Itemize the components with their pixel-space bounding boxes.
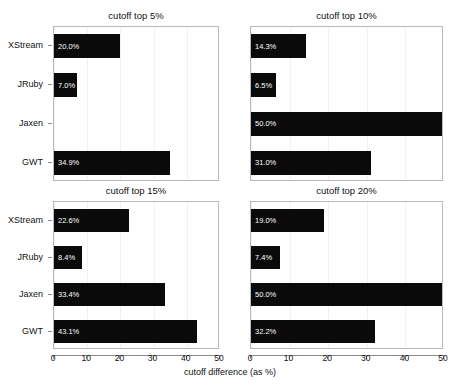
bar-value-label-jruby: 7.4% bbox=[255, 253, 272, 262]
ytick-mark-xstream bbox=[48, 220, 52, 221]
gridline-x-40 bbox=[187, 27, 188, 180]
bar-gwt bbox=[54, 320, 197, 343]
ytick-mark-xstream bbox=[48, 45, 52, 46]
bar-jaxen bbox=[251, 283, 443, 306]
xtick-label-30: 30 bbox=[148, 353, 157, 363]
bar-gwt bbox=[54, 151, 170, 175]
bar-value-label-jruby: 6.5% bbox=[255, 81, 272, 90]
xtick-label-40: 40 bbox=[400, 353, 409, 363]
gridline-x-0 bbox=[54, 202, 55, 348]
gridline-x-40 bbox=[405, 202, 406, 348]
plot-area-1: 20.0%7.0%34.9% bbox=[53, 26, 219, 181]
ytick-mark-gwt bbox=[48, 331, 52, 332]
xtick-label-20: 20 bbox=[322, 353, 331, 363]
bar-jruby bbox=[54, 246, 82, 269]
xtick-mark-50 bbox=[219, 355, 220, 359]
panel-title-2: cutoff top 10% bbox=[250, 10, 443, 22]
bar-value-label-gwt: 34.9% bbox=[58, 158, 79, 167]
gridline-x-40 bbox=[405, 27, 406, 180]
panel-title-3: cutoff top 15% bbox=[53, 185, 219, 197]
bar-gwt bbox=[251, 320, 375, 343]
xtick-label-10: 10 bbox=[284, 353, 293, 363]
bar-xstream bbox=[251, 209, 324, 232]
bar-value-label-jaxen: 33.4% bbox=[58, 290, 79, 299]
gridline-x-0 bbox=[251, 202, 252, 348]
gridline-x-20 bbox=[120, 27, 121, 180]
gridline-x-20 bbox=[328, 202, 329, 348]
gridline-x-20 bbox=[120, 202, 121, 348]
bar-jaxen bbox=[251, 112, 443, 136]
ytick-mark-jruby bbox=[48, 257, 52, 258]
xtick-mark-30 bbox=[366, 355, 367, 359]
ytick-label-gwt: GWT bbox=[0, 157, 43, 167]
gridline-x-10 bbox=[290, 202, 291, 348]
xtick-mark-10 bbox=[289, 355, 290, 359]
chart-panel-2: cutoff top 10%14.3%6.5%50.0%31.0% bbox=[0, 0, 460, 386]
chart-panel-1: cutoff top 5%20.0%7.0%34.9%XStreamJRubyJ… bbox=[0, 0, 460, 386]
ytick-label-jaxen: Jaxen bbox=[0, 289, 43, 299]
xtick-mark-20 bbox=[327, 355, 328, 359]
ytick-mark-jaxen bbox=[48, 294, 52, 295]
xtick-label-10: 10 bbox=[81, 353, 90, 363]
plot-area-4: 19.0%7.4%50.0%32.2% bbox=[250, 201, 443, 349]
gridline-x-40 bbox=[187, 202, 188, 348]
gridline-x-30 bbox=[154, 202, 155, 348]
bar-value-label-jaxen: 50.0% bbox=[255, 119, 276, 128]
bar-jruby bbox=[54, 73, 77, 97]
xtick-mark-40 bbox=[186, 355, 187, 359]
plot-area-3: 22.6%8.4%33.4%43.1% bbox=[53, 201, 219, 349]
ytick-label-xstream: XStream bbox=[0, 40, 43, 50]
xtick-label-0: 0 bbox=[51, 353, 56, 363]
xtick-mark-30 bbox=[153, 355, 154, 359]
bar-gwt bbox=[251, 151, 371, 175]
gridline-x-30 bbox=[367, 202, 368, 348]
bar-xstream bbox=[54, 209, 129, 232]
bar-jruby bbox=[251, 246, 280, 269]
xtick-mark-0 bbox=[250, 355, 251, 359]
bar-value-label-xstream: 22.6% bbox=[58, 216, 79, 225]
ytick-label-jruby: JRuby bbox=[0, 252, 43, 262]
x-axis-title: cutoff difference (as %) bbox=[0, 367, 460, 378]
ytick-label-xstream: XStream bbox=[0, 215, 43, 225]
ytick-mark-jruby bbox=[48, 84, 52, 85]
bar-value-label-jruby: 7.0% bbox=[58, 81, 75, 90]
panel-title-1: cutoff top 5% bbox=[53, 10, 219, 22]
bar-value-label-jruby: 8.4% bbox=[58, 253, 75, 262]
xtick-label-0: 0 bbox=[248, 353, 253, 363]
xtick-label-50: 50 bbox=[214, 353, 223, 363]
bar-value-label-gwt: 31.0% bbox=[255, 158, 276, 167]
x-axis-line-4 bbox=[250, 355, 443, 356]
gridline-x-30 bbox=[154, 27, 155, 180]
ytick-label-jruby: JRuby bbox=[0, 79, 43, 89]
ytick-mark-jaxen bbox=[48, 123, 52, 124]
bar-value-label-xstream: 19.0% bbox=[255, 216, 276, 225]
gridline-x-10 bbox=[290, 27, 291, 180]
bar-value-label-gwt: 32.2% bbox=[255, 327, 276, 336]
bar-xstream bbox=[54, 34, 120, 58]
bar-xstream bbox=[251, 34, 306, 58]
gridline-x-0 bbox=[251, 27, 252, 180]
chart-panel-4: cutoff top 20%19.0%7.4%50.0%32.2%0102030… bbox=[0, 0, 460, 386]
gridline-x-20 bbox=[328, 27, 329, 180]
bar-value-label-jaxen: 50.0% bbox=[255, 290, 276, 299]
bar-value-label-gwt: 43.1% bbox=[58, 327, 79, 336]
gridline-x-10 bbox=[87, 202, 88, 348]
gridline-x-30 bbox=[367, 27, 368, 180]
panel-title-4: cutoff top 20% bbox=[250, 185, 443, 197]
chart-panel-3: cutoff top 15%22.6%8.4%33.4%43.1%XStream… bbox=[0, 0, 460, 386]
xtick-mark-20 bbox=[119, 355, 120, 359]
xtick-label-30: 30 bbox=[361, 353, 370, 363]
bar-value-label-xstream: 20.0% bbox=[58, 42, 79, 51]
ytick-label-jaxen: Jaxen bbox=[0, 118, 43, 128]
bar-jaxen bbox=[54, 283, 165, 306]
ytick-mark-gwt bbox=[48, 162, 52, 163]
xtick-mark-0 bbox=[53, 355, 54, 359]
bar-jruby bbox=[251, 73, 276, 97]
chart-figure: cutoff top 5%20.0%7.0%34.9%XStreamJRubyJ… bbox=[0, 0, 460, 386]
gridline-x-10 bbox=[87, 27, 88, 180]
xtick-mark-40 bbox=[404, 355, 405, 359]
x-axis-line-3 bbox=[53, 355, 219, 356]
xtick-mark-50 bbox=[443, 355, 444, 359]
plot-area-2: 14.3%6.5%50.0%31.0% bbox=[250, 26, 443, 181]
xtick-label-40: 40 bbox=[181, 353, 190, 363]
